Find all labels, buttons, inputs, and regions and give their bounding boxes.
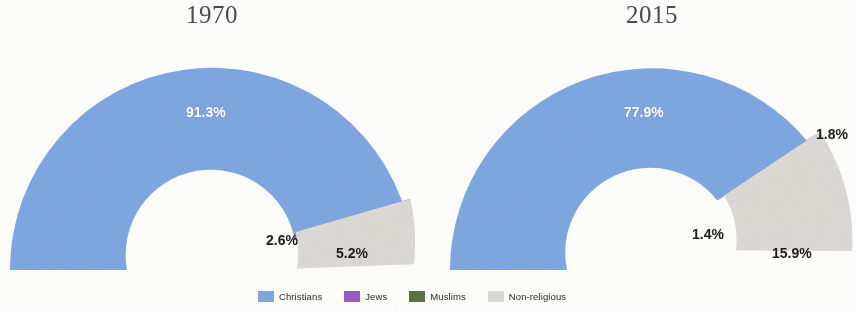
figure-container: 1970 2015 [0,0,856,311]
chart-legend: Christians Jews Muslims Non-religious [258,291,566,302]
legend-label-jews: Jews [365,291,387,302]
donut-chart-1970 [10,68,415,270]
value-label-2015-muslims: 1.4% [692,226,724,242]
donut-chart-2015 [450,68,852,270]
legend-swatch-nonreligious [488,291,504,302]
semicircle-donut-charts [0,0,856,311]
legend-item-muslims[interactable]: Muslims [409,291,466,302]
value-label-1970-christians: 91.3% [186,104,226,120]
value-label-1970-jews: 2.6% [266,232,298,248]
value-label-2015-jews: 1.8% [816,126,848,142]
legend-item-nonreligious[interactable]: Non-religious [488,291,566,302]
legend-swatch-jews [344,291,360,302]
value-label-2015-nonreligious: 15.9% [772,245,812,261]
legend-label-nonreligious: Non-religious [509,291,566,302]
legend-item-jews[interactable]: Jews [344,291,387,302]
value-label-2015-christians: 77.9% [624,104,664,120]
legend-item-christians[interactable]: Christians [258,291,322,302]
legend-swatch-muslims [409,291,425,302]
value-label-1970-nonreligious: 5.2% [336,245,368,261]
legend-label-christians: Christians [279,291,322,302]
legend-label-muslims: Muslims [430,291,466,302]
legend-swatch-christians [258,291,274,302]
